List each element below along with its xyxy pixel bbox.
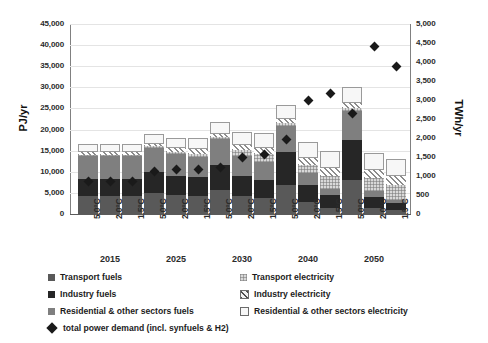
transport-fuels-swatch <box>48 274 55 281</box>
transport-electricity-swatch <box>240 274 247 281</box>
bar-segment-te <box>386 185 406 199</box>
y-tick-label-right: 0 <box>416 210 460 218</box>
x-tick-label: 5.0°C <box>92 199 102 219</box>
bar-segment-re <box>232 132 252 146</box>
x-tick-label: 1.5°C <box>268 199 278 219</box>
bar-segment-ie <box>364 170 384 178</box>
bar-segment-ie <box>320 168 340 176</box>
bar-segment-if <box>254 180 274 198</box>
bar-segment-re <box>210 122 230 134</box>
bar-segment-ie <box>78 152 98 155</box>
plot-area <box>70 24 410 214</box>
legend-label: Transport fuels <box>60 272 122 282</box>
legend-label: Industry electricity <box>254 289 330 299</box>
bar-segment-re <box>342 87 362 102</box>
bar-segment-re <box>122 144 142 153</box>
y-tick-label-right: 5,000 <box>416 20 460 28</box>
y-tick-label-right: 1,000 <box>416 172 460 180</box>
bar-segment-ie <box>166 148 186 152</box>
bar-segment-if <box>166 176 186 196</box>
y-tick-label-right: 4,500 <box>416 39 460 47</box>
bar-segment-ie <box>386 176 406 185</box>
x-tick-label: 1.5°C <box>202 199 212 219</box>
industry-fuels-swatch <box>48 291 55 298</box>
total-power-demand-marker <box>325 89 335 99</box>
bar-segment-ie <box>210 134 230 137</box>
x-tick-label: 1.5°C <box>334 199 344 219</box>
y-tick-label-left: 15,000 <box>20 147 64 155</box>
total-power-demand-marker <box>391 62 401 72</box>
bar-segment-if <box>342 140 362 181</box>
bar-segment-re <box>298 142 318 158</box>
x-tick-label: 1.5°C <box>400 199 410 219</box>
legend-label: total power demand (incl. synfuels & H2) <box>63 323 229 333</box>
bar-segment-te <box>188 154 208 157</box>
y-tick-label-left: 35,000 <box>20 62 64 70</box>
y-tick-label-left: 5,000 <box>20 189 64 197</box>
bar-segment-te <box>210 137 230 139</box>
legend-item[interactable]: Residential & other sectors fuels <box>48 306 194 316</box>
y-tick-label-right: 3,500 <box>416 77 460 85</box>
y-tick-label-right: 1,500 <box>416 153 460 161</box>
y-axis-label-left: PJ/yr <box>17 88 29 148</box>
bar-segment-rf <box>298 173 318 185</box>
bar-segment-te <box>100 155 120 156</box>
y-tick-label-left: 30,000 <box>20 83 64 91</box>
bar-segment-ie <box>298 158 318 165</box>
bar-segment-ie <box>232 145 252 150</box>
x-tick-label: 2.0°C <box>180 199 190 219</box>
y-tick-label-left: 10,000 <box>20 168 64 176</box>
bar-segment-if <box>276 152 296 185</box>
bar-segment-re <box>276 105 296 119</box>
legend-label: Transport electricity <box>252 272 334 282</box>
x-tick-label: 2.0°C <box>378 199 388 219</box>
gridline <box>70 45 410 46</box>
y-tick-label-right: 4,000 <box>416 58 460 66</box>
bar-segment-if <box>232 176 252 196</box>
bar-segment-re <box>364 153 384 170</box>
bar-segment-if <box>188 177 208 196</box>
y-tick-label-right: 3,000 <box>416 96 460 104</box>
legend-item[interactable]: Industry fuels <box>48 289 116 299</box>
bar-segment-te <box>364 178 384 191</box>
x-tick-label: 2.0°C <box>312 199 322 219</box>
industry-electricity-swatch <box>240 290 249 299</box>
bar-segment-re <box>386 159 406 177</box>
y-tick-label-left: 40,000 <box>20 41 64 49</box>
legend-item[interactable]: Residential & other sectors electricity <box>240 306 408 316</box>
bar-segment-re <box>320 151 340 168</box>
legend-item[interactable]: Industry electricity <box>240 289 330 299</box>
x-tick-label: 5.0°C <box>356 199 366 219</box>
total-power-demand-marker <box>303 96 313 106</box>
legend-item[interactable]: total power demand (incl. synfuels & H2) <box>48 323 229 333</box>
bar-segment-te <box>276 123 296 126</box>
y-axis-right-line <box>410 24 411 215</box>
y-tick-label-left: 25,000 <box>20 104 64 112</box>
bar-segment-rf <box>364 191 384 196</box>
bar-segment-re <box>100 144 120 153</box>
residential-electricity-swatch <box>240 307 249 316</box>
chart-legend: Transport fuelsTransport electricityIndu… <box>0 272 488 336</box>
gridline <box>70 66 410 67</box>
bar-segment-te <box>78 155 98 156</box>
legend-item[interactable]: Transport electricity <box>240 272 334 282</box>
bar-segment-ie <box>188 149 208 153</box>
bar-segment-ie <box>100 152 120 155</box>
y-tick-label-right: 2,500 <box>416 115 460 123</box>
chart-root: PJ/yr TWh/yr 05,00010,00015,00020,00025,… <box>0 0 488 343</box>
x-group-label: 2015 <box>74 254 146 264</box>
x-group-label: 2040 <box>272 254 344 264</box>
x-tick-label: 5.0°C <box>224 199 234 219</box>
legend-item[interactable]: Transport fuels <box>48 272 122 282</box>
bar-segment-te <box>144 146 164 148</box>
x-tick-label: 2.0°C <box>114 199 124 219</box>
bar-segment-re <box>188 138 208 149</box>
legend-label: Industry fuels <box>60 289 116 299</box>
y-tick-label-right: 500 <box>416 191 460 199</box>
legend-label: Residential & other sectors fuels <box>60 306 194 316</box>
bar-segment-re <box>144 134 164 144</box>
x-tick-label: 1.5°C <box>136 199 146 219</box>
bar-segment-rf <box>320 189 340 196</box>
bar-segment-te <box>298 165 318 173</box>
bar-segment-ie <box>122 152 142 155</box>
